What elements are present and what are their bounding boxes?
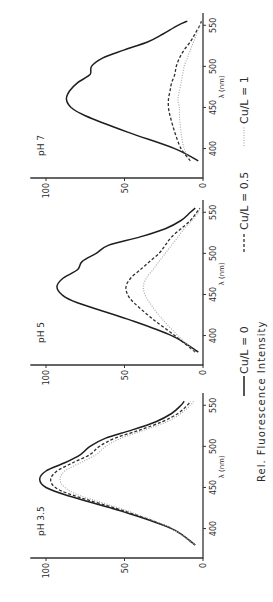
axis-lines (30, 200, 203, 365)
legend-item: Cu/L = 0.5 (238, 172, 251, 252)
x-tick-label: 500 (209, 439, 218, 454)
y-tick-label: 100 (42, 183, 51, 198)
x-tick-label: 400 (209, 328, 218, 343)
panel-ph3-5: 050100400450500550λ (nm)pH 3.5 (30, 393, 226, 578)
chart-frame: Rel. Fluorescence Intensity 050100400450… (0, 0, 273, 602)
legend-label: Cu/L = 0.5 (238, 172, 251, 230)
legend-item: Cu/L = 1 (238, 76, 251, 146)
legend-label: Cu/L = 1 (238, 76, 251, 124)
x-tick-label: 450 (209, 100, 218, 115)
x-axis-label: λ (nm) (218, 262, 226, 285)
series-line-cu-l-1 (178, 21, 202, 161)
panel-label: pH 3.5 (36, 506, 46, 536)
legend: Cu/L = 0Cu/L = 0.5Cu/L = 1 (238, 76, 251, 396)
x-tick-label: 550 (209, 398, 218, 413)
panel-ph5: 050100400450500550λ (nm)pH 5 (30, 200, 226, 385)
series-line-cu-l-0 (57, 208, 198, 352)
y-tick-label: 50 (121, 370, 130, 380)
x-tick-label: 500 (209, 59, 218, 74)
axis-lines (30, 13, 203, 178)
y-axis-label: Rel. Fluorescence Intensity (256, 321, 267, 482)
series-line-cu-l-0-5 (51, 401, 196, 545)
y-tick-label: 50 (121, 563, 130, 573)
series-line-cu-l-0 (66, 21, 198, 161)
legend-item: Cu/L = 0 (238, 326, 251, 396)
y-tick-label: 0 (199, 370, 208, 375)
x-tick-label: 550 (209, 205, 218, 220)
panel-label: pH 7 (36, 135, 46, 156)
series-line-cu-l-1 (143, 208, 200, 352)
axis-lines (30, 393, 203, 558)
legend-label: Cu/L = 0 (238, 326, 251, 374)
fluorescence-chart: Rel. Fluorescence Intensity 050100400450… (0, 0, 273, 602)
x-axis-label: λ (nm) (218, 75, 226, 98)
x-tick-label: 400 (209, 521, 218, 536)
panel-label: pH 5 (36, 322, 46, 343)
series-line-cu-l-0-5 (168, 21, 201, 161)
x-tick-label: 550 (209, 18, 218, 33)
y-tick-label: 100 (42, 563, 51, 578)
y-tick-label: 100 (42, 370, 51, 385)
x-tick-label: 400 (209, 141, 218, 156)
y-tick-label: 0 (199, 563, 208, 568)
panel-ph7: 050100400450500550λ (nm)pH 7 (30, 13, 226, 198)
x-tick-label: 500 (209, 246, 218, 261)
x-tick-label: 450 (209, 287, 218, 302)
y-tick-label: 50 (121, 183, 130, 193)
x-tick-label: 450 (209, 480, 218, 495)
y-tick-label: 0 (199, 183, 208, 188)
x-axis-label: λ (nm) (218, 455, 226, 478)
series-line-cu-l-1 (60, 401, 195, 545)
